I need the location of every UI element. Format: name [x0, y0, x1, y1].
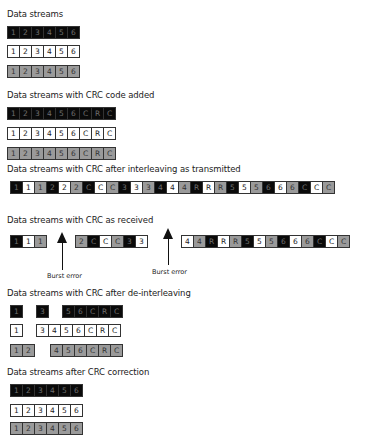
title-crc-added: Data streams with CRC code added: [7, 90, 154, 100]
black-deinterleaved-fragment: 1: [10, 305, 23, 318]
black-stream: 123456: [10, 384, 83, 397]
interleaved-stream: 111222CCC333444RRR555666CCC: [10, 181, 335, 194]
arrow-shaft: [168, 238, 169, 265]
data-cell: 3: [135, 235, 148, 248]
received-fragment: 44RRR555666CCC: [181, 235, 350, 248]
title-data-streams: Data streams: [7, 9, 63, 19]
received-fragment: 111: [10, 235, 47, 248]
data-cell: C: [108, 324, 121, 337]
gray-stream: 123456CRC: [7, 147, 116, 160]
gray-deinterleaved-fragment: 456CRC: [50, 344, 123, 357]
white-deinterleaved-fragment: 3456CRC: [36, 324, 121, 337]
black-stream: 123456CRC: [7, 107, 116, 120]
data-cell: C: [337, 235, 350, 248]
data-cell: 6: [70, 384, 83, 397]
data-cell: 6: [67, 65, 80, 78]
data-cell: C: [110, 344, 123, 357]
gray-deinterleaved-fragment: 12: [10, 344, 35, 357]
data-cell: 6: [70, 404, 83, 417]
data-cell: 1: [10, 305, 23, 318]
white-stream: 123456CRC: [7, 127, 116, 140]
data-cell: C: [103, 147, 116, 160]
received-fragment: 2CCC33: [75, 235, 148, 248]
title-deinterleaved: Data streams with CRC after de-interleav…: [7, 288, 191, 298]
data-cell: C: [103, 127, 116, 140]
data-cell: 6: [67, 45, 80, 58]
data-cell: 2: [22, 344, 35, 357]
data-cell: 3: [36, 305, 49, 318]
data-cell: 1: [10, 324, 23, 337]
black-stream: 123456: [7, 26, 80, 39]
white-stream: 123456: [10, 404, 83, 417]
black-deinterleaved-fragment: 3: [36, 305, 49, 318]
data-cell: 1: [34, 235, 47, 248]
title-interleaved-transmitted: Data streams with CRC after interleaving…: [7, 164, 241, 174]
burst-error-label: Burst error: [47, 272, 82, 280]
gray-stream: 123456: [10, 422, 83, 435]
title-received: Data streams with CRC as received: [7, 215, 153, 225]
data-cell: C: [110, 305, 123, 318]
data-cell: C: [103, 107, 116, 120]
black-deinterleaved-fragment: 56CRC: [62, 305, 123, 318]
data-cell: C: [322, 181, 335, 194]
title-corrected: Data streams after CRC correction: [7, 367, 149, 377]
data-cell: 6: [67, 26, 80, 39]
burst-error-label: Burst error: [152, 268, 187, 276]
white-deinterleaved-fragment: 1: [10, 324, 23, 337]
white-stream: 123456: [7, 45, 80, 58]
arrow-shaft: [62, 242, 63, 270]
data-cell: 6: [70, 422, 83, 435]
gray-stream: 123456: [7, 65, 80, 78]
